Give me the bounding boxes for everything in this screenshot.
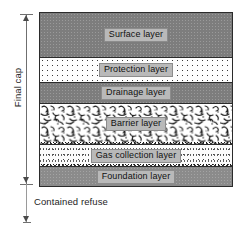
layer-gas-collection: Gas collection layer — [40, 144, 232, 166]
landfill-cap-diagram: Final cap Contained refuse Surface layer… — [0, 0, 243, 236]
final-cap-label: Final cap — [12, 48, 23, 128]
interface-band — [40, 141, 232, 144]
arrow-down-icon — [23, 177, 29, 183]
layer-label-gas-collection: Gas collection layer — [91, 149, 182, 163]
layer-drainage: Drainage layer — [40, 82, 232, 103]
layer-label-protection: Protection layer — [99, 63, 173, 77]
layer-label-surface: Surface layer — [104, 28, 168, 42]
dimension-tick-bottom — [23, 222, 31, 223]
layer-label-barrier: Barrier layer — [106, 117, 166, 131]
layer-surface: Surface layer — [40, 13, 232, 57]
layer-foundation: Foundation layer — [40, 166, 232, 186]
arrow-up-icon — [23, 15, 29, 21]
interface-band — [40, 163, 232, 166]
layer-label-drainage: Drainage layer — [101, 86, 171, 100]
layer-barrier: Barrier layer — [40, 103, 232, 144]
layer-label-foundation: Foundation layer — [97, 170, 176, 184]
dimension-annotation-column: Final cap — [0, 0, 38, 236]
contained-refuse-label: Contained refuse — [34, 196, 108, 207]
layer-protection: Protection layer — [40, 57, 232, 82]
final-cap-dimension-line — [26, 14, 27, 184]
layer-stack: Surface layer Protection layer Drainage … — [39, 12, 233, 187]
